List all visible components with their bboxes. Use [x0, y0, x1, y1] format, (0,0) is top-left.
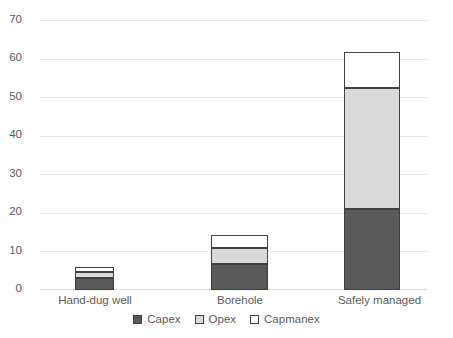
y-axis-tick-label: 60 [9, 51, 22, 63]
y-axis-tick-label: 50 [9, 90, 22, 102]
legend-item-label: Capmanex [264, 313, 320, 325]
x-axis-label-hand-dug-well: Hand-dug well [35, 294, 155, 307]
x-axis-label-safely-managed: Safely managed [312, 294, 447, 307]
y-axis-tick-label: 30 [9, 167, 22, 179]
y-axis-tick-70: 70 [0, 14, 22, 25]
bar-segment-opex[interactable] [211, 248, 268, 264]
y-axis-tick-50: 50 [0, 91, 22, 102]
y-axis-tick-label: 10 [9, 244, 22, 256]
capex-swatch-icon [133, 315, 142, 324]
stacked-bar-chart: 70 60 50 40 30 20 10 0 [0, 0, 453, 338]
bar-segment-capex[interactable] [75, 278, 114, 290]
bar-hand-dug-well[interactable] [75, 267, 114, 290]
y-axis-tick-30: 30 [0, 168, 22, 179]
bar-segment-capex[interactable] [211, 264, 268, 290]
legend-item-capmanex[interactable]: Capmanex [250, 313, 320, 325]
x-axis-label-borehole: Borehole [180, 294, 300, 307]
legend-item-label: Capex [147, 313, 180, 325]
y-axis-tick-label: 0 [16, 282, 22, 294]
bar-segment-capex[interactable] [344, 209, 400, 290]
bar-segment-capmanex[interactable] [211, 235, 268, 247]
y-axis-tick-label: 40 [9, 128, 22, 140]
legend-item-opex[interactable]: Opex [195, 313, 237, 325]
legend-item-capex[interactable]: Capex [133, 313, 180, 325]
y-axis-tick-0: 0 [0, 283, 22, 294]
y-axis-tick-60: 60 [0, 52, 22, 63]
plot-area [40, 20, 427, 290]
legend-item-label: Opex [209, 313, 237, 325]
bar-segment-opex[interactable] [75, 272, 114, 278]
gridline-70 [40, 20, 427, 21]
chart-legend: Capex Opex Capmanex [0, 313, 453, 325]
x-axis-label-text: Safely managed [338, 294, 421, 306]
x-axis-label-text: Borehole [217, 294, 263, 306]
bar-segment-opex[interactable] [344, 88, 400, 209]
y-axis-tick-10: 10 [0, 245, 22, 256]
bar-safely-managed[interactable] [344, 52, 400, 290]
bar-borehole[interactable] [211, 235, 268, 290]
capmanex-swatch-icon [250, 315, 259, 324]
opex-swatch-icon [195, 315, 204, 324]
y-axis-tick-label: 70 [9, 13, 22, 25]
y-axis-tick-20: 20 [0, 206, 22, 217]
bar-segment-capmanex[interactable] [75, 267, 114, 272]
y-axis-tick-label: 20 [9, 205, 22, 217]
x-axis-label-text: Hand-dug well [58, 294, 132, 306]
y-axis-tick-40: 40 [0, 129, 22, 140]
bar-segment-capmanex[interactable] [344, 52, 400, 89]
